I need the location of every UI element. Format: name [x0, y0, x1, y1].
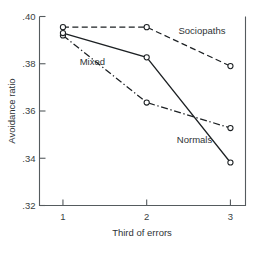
y-tick-label: .40 — [22, 11, 35, 22]
data-point-mixed — [228, 125, 233, 130]
data-point-normals — [60, 30, 65, 35]
x-tick-label: 2 — [144, 211, 149, 222]
y-tick-label: .36 — [22, 105, 35, 116]
chart-figure: .32.34.36.38.40 123 SociopathsMixedNorma… — [0, 0, 278, 254]
x-axis-ticks: 123 — [60, 200, 233, 222]
data-point-sociopaths — [228, 64, 233, 69]
line-chart: .32.34.36.38.40 123 SociopathsMixedNorma… — [0, 0, 278, 254]
y-axis-ticks: .32.34.36.38.40 — [22, 11, 45, 211]
y-tick-label: .38 — [22, 58, 35, 69]
data-point-sociopaths — [144, 25, 149, 30]
data-point-sociopaths — [60, 25, 65, 30]
data-point-normals — [228, 160, 233, 165]
y-tick-label: .34 — [22, 153, 35, 164]
data-point-normals — [144, 55, 149, 60]
series-label-normals: Normals — [177, 134, 213, 145]
x-tick-label: 1 — [60, 211, 65, 222]
series-label-sociopaths: Sociopaths — [179, 25, 226, 36]
series-line-mixed — [63, 35, 230, 128]
data-point-mixed — [144, 100, 149, 105]
x-tick-label: 3 — [228, 211, 233, 222]
series-labels-group: SociopathsMixedNormals — [80, 25, 226, 145]
series-label-mixed: Mixed — [80, 56, 105, 67]
y-tick-label: .32 — [22, 200, 35, 211]
x-axis-title: Third of errors — [112, 227, 172, 238]
axis-frame — [40, 17, 246, 206]
y-axis-title: Avoidance ratio — [6, 78, 17, 143]
axis-left-bottom-frame — [40, 17, 246, 206]
